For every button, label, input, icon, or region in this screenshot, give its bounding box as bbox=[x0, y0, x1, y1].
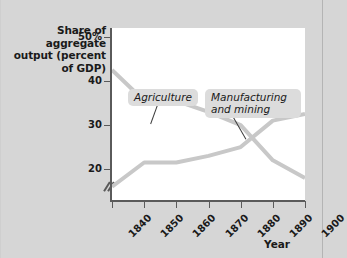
x-axis-line bbox=[110, 200, 305, 202]
y-tick-labels: 50%403020 bbox=[56, 0, 102, 258]
manufacturing-series-label: Manufacturing and mining bbox=[205, 89, 301, 118]
x-tick-1870 bbox=[209, 201, 210, 208]
y-tick-label-20: 20 bbox=[60, 163, 102, 174]
x-tick-label-1870: 1870 bbox=[223, 212, 250, 239]
y-tick-30 bbox=[104, 125, 111, 126]
x-tick-label-1900: 1900 bbox=[319, 212, 346, 239]
y-tick-label-50: 50% bbox=[60, 31, 102, 42]
y-tick-label-40: 40 bbox=[60, 75, 102, 86]
y-tick-40 bbox=[104, 81, 111, 82]
x-tick-1860 bbox=[176, 201, 177, 208]
page-border-right bbox=[322, 0, 323, 258]
x-tick-label-1860: 1860 bbox=[190, 212, 217, 239]
x-tick-label-1840: 1840 bbox=[126, 212, 153, 239]
x-tick-1850 bbox=[144, 201, 145, 208]
x-axis-title: Year bbox=[264, 238, 290, 250]
x-tick-label-1850: 1850 bbox=[158, 212, 185, 239]
x-tick-label-1890: 1890 bbox=[287, 212, 314, 239]
x-tick-1880 bbox=[241, 201, 242, 208]
y-tick-50 bbox=[104, 37, 111, 38]
agriculture-series-label: Agriculture bbox=[128, 89, 198, 106]
series-line-agriculture bbox=[112, 70, 305, 178]
y-tick-20 bbox=[104, 169, 111, 170]
x-tick-1900 bbox=[305, 201, 306, 208]
x-tick-1890 bbox=[273, 201, 274, 208]
x-tick-1840 bbox=[112, 201, 113, 208]
x-tick-label-1880: 1880 bbox=[255, 212, 282, 239]
y-tick-label-30: 30 bbox=[60, 119, 102, 130]
series-line-manufacturing-and-mining bbox=[112, 114, 305, 187]
page-border-left bbox=[0, 0, 1, 258]
